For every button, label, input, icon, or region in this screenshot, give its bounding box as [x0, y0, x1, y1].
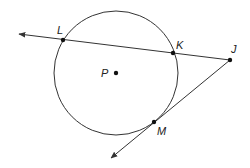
label-l: L — [57, 24, 63, 36]
label-j: J — [230, 43, 237, 55]
point-m — [152, 120, 156, 124]
point-l — [61, 38, 65, 42]
point-p — [114, 71, 118, 75]
geometry-diagram: LKJPM — [0, 0, 250, 168]
point-k — [171, 51, 175, 55]
secant-ray-jl — [19, 34, 230, 60]
label-p: P — [101, 67, 109, 79]
label-m: M — [157, 125, 167, 137]
point-j — [228, 58, 232, 62]
tangent-ray-jm — [111, 60, 230, 158]
label-k: K — [176, 39, 184, 51]
points-group: LKJPM — [57, 24, 237, 137]
